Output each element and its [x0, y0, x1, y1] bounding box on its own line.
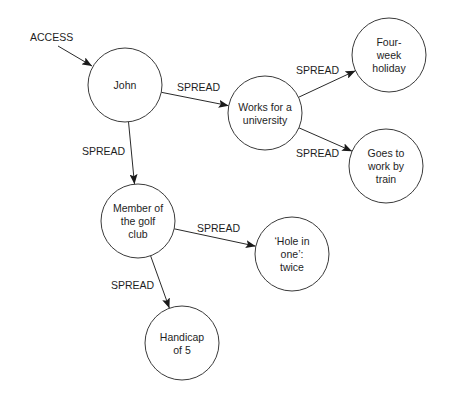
node-label-line: one’:	[281, 248, 304, 260]
node-john: John	[88, 48, 162, 122]
node-label-line: holiday	[372, 62, 406, 74]
node-label-line: work by	[367, 160, 405, 172]
spread-label: SPREAD	[111, 279, 155, 291]
edge-works-to-holiday: SPREAD	[296, 64, 356, 97]
node-label-line: the golf	[121, 215, 156, 227]
access-label: ACCESS	[30, 31, 73, 43]
node-label-line: ‘Hole in	[274, 235, 309, 247]
node-label-line: university	[243, 114, 288, 126]
node-label-line: Handicap	[160, 331, 205, 343]
edge-golf-to-handicap: SPREAD	[111, 256, 169, 308]
node-label-line: club	[128, 228, 147, 240]
spreading-activation-diagram: ACCESS SPREADSPREADSPREADSPREADSPREADSPR…	[0, 0, 451, 408]
node-label-line: of 5	[173, 344, 191, 356]
node-train: Goes towork bytrain	[349, 129, 423, 203]
spread-arrow	[129, 122, 135, 184]
node-holiday: Four-weekholiday	[352, 18, 426, 92]
access-arrow	[58, 46, 92, 66]
access-entry: ACCESS	[30, 31, 92, 66]
node-handicap: Handicapof 5	[145, 306, 219, 380]
node-golf: Member ofthe golfclub	[101, 184, 175, 258]
node-label-line: Works for a	[238, 101, 292, 113]
nodes: JohnWorks for auniversityFour-weekholida…	[88, 18, 426, 380]
spread-label: SPREAD	[197, 222, 241, 234]
node-label-line: Four-	[376, 36, 402, 48]
edge-john-to-golf: SPREAD	[82, 122, 135, 184]
node-label-line: John	[114, 79, 137, 91]
node-label-line: twice	[280, 261, 304, 273]
node-label-line: week	[376, 49, 402, 61]
spread-label: SPREAD	[177, 81, 221, 93]
node-works: Works for auniversity	[228, 76, 302, 150]
spread-label: SPREAD	[296, 147, 340, 159]
edge-golf-to-hole: SPREAD	[174, 222, 256, 246]
edge-works-to-train: SPREAD	[296, 128, 352, 159]
node-hole: ‘Hole inone’:twice	[255, 217, 329, 291]
node-label-line: Member of	[113, 202, 163, 214]
spread-arrow	[161, 92, 228, 105]
node-label-line: train	[376, 173, 397, 185]
edge-john-to-works: SPREAD	[161, 81, 228, 106]
spread-label: SPREAD	[82, 145, 126, 157]
node-label-line: Goes to	[368, 147, 405, 159]
spread-label: SPREAD	[296, 64, 340, 76]
